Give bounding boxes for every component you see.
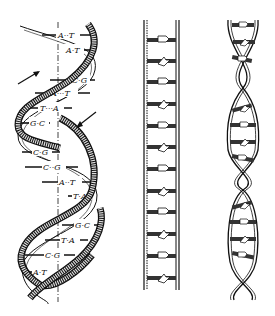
twisted-ladder-rungs (230, 22, 256, 259)
bp-label: C·G (45, 251, 61, 260)
bp-label: C··G (43, 163, 61, 172)
bp-label: A·T (32, 268, 47, 277)
bp-label: T···A (40, 104, 59, 113)
bp-label: A··T (57, 31, 75, 40)
bp-label: A·T (65, 46, 80, 55)
bp-label: T·A (61, 236, 75, 245)
bp-label: G·C (75, 221, 90, 230)
double-helix-panel: A··T A·T C·G A···T T···A G·C C·G C··G A·… (18, 22, 101, 304)
ladder-rungs (147, 36, 176, 283)
bp-label: G·C (30, 119, 45, 128)
twisted-ladder-panel (227, 20, 258, 300)
bp-label: C·G (33, 148, 49, 157)
bp-label: A··T (58, 178, 76, 187)
ladder-panel (144, 20, 179, 290)
dna-figure: A··T A·T C·G A···T T···A G·C C·G C··G A·… (0, 0, 275, 316)
